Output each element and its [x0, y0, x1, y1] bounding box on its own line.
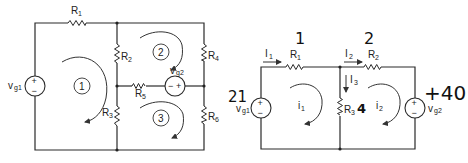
node — [115, 21, 118, 24]
resistor-r2 — [115, 44, 120, 63]
svg-text:+: + — [412, 98, 417, 108]
svg-text:4: 4 — [215, 55, 219, 62]
svg-text:i: i — [298, 100, 300, 111]
label-r3: R3 — [102, 107, 113, 119]
handwritten-vg2-value: +40 — [424, 81, 466, 105]
resistor-r3 — [338, 98, 343, 115]
svg-text:−: − — [258, 108, 263, 118]
wire-left-bottom — [35, 96, 204, 150]
svg-text:+: + — [258, 98, 263, 108]
voltage-source-vg1: + − — [25, 76, 45, 96]
mesh-label-2: 2 — [153, 44, 169, 60]
svg-text:2: 2 — [375, 54, 379, 61]
resistor-r6 — [202, 106, 207, 124]
svg-text:1: 1 — [78, 10, 82, 17]
label-r6: R6 — [208, 111, 219, 123]
resistor-r4 — [202, 44, 207, 61]
svg-text:3: 3 — [158, 113, 164, 124]
svg-text:2: 2 — [349, 53, 353, 60]
left-circuit: + − − + R1 R2 R3 R4 R5 R6 vg1 vg2 1 — [8, 5, 219, 152]
label-vg1: vg1 — [8, 80, 22, 92]
node — [115, 148, 118, 151]
resistor-r3 — [115, 106, 120, 126]
resistor-r1 — [68, 21, 86, 26]
label-r2: R2 — [368, 49, 379, 61]
label-r1: R1 — [290, 49, 301, 61]
svg-text:+: + — [176, 81, 181, 91]
voltage-source-vg2: − + — [165, 76, 185, 96]
svg-text:3: 3 — [354, 79, 358, 86]
label-r4: R4 — [208, 50, 219, 62]
svg-text:3: 3 — [109, 112, 113, 119]
svg-text:−: − — [412, 108, 417, 118]
svg-text:−: − — [32, 86, 37, 96]
label-r5: R5 — [135, 88, 146, 100]
svg-text:i: i — [376, 100, 378, 111]
node — [202, 84, 205, 87]
svg-text:I: I — [345, 48, 348, 59]
svg-text:I: I — [350, 74, 353, 85]
wire-left-top — [261, 67, 286, 98]
svg-text:g1: g1 — [14, 84, 22, 92]
mesh-arrow-i1 — [290, 84, 322, 124]
svg-text:I: I — [265, 48, 268, 59]
svg-text:v: v — [8, 80, 13, 91]
circuit-diagrams: + − − + R1 R2 R3 R4 R5 R6 vg1 vg2 1 — [0, 0, 468, 163]
svg-text:2: 2 — [128, 56, 132, 63]
mesh-label-3: 3 — [153, 110, 169, 126]
mesh-label-1: 1 — [74, 78, 90, 94]
svg-text:1: 1 — [301, 105, 305, 112]
svg-text:g2: g2 — [434, 107, 442, 115]
node — [115, 84, 118, 87]
label-vg2: vg2 — [170, 65, 184, 77]
node — [338, 65, 341, 68]
label-r2: R2 — [121, 51, 132, 63]
svg-text:2: 2 — [158, 47, 164, 58]
label-current-i1: I1 — [265, 48, 273, 60]
svg-text:v: v — [170, 65, 175, 76]
mesh-arrow-i2 — [368, 84, 400, 124]
svg-text:2: 2 — [379, 105, 383, 112]
right-circuit: + − + − R1 R2 R3 I1 I2 I3 vg1 vg2 i1 i2 … — [228, 29, 466, 151]
svg-text:5: 5 — [142, 93, 146, 100]
label-r1: R1 — [71, 5, 82, 17]
handwritten-vg1-value: 21 — [228, 88, 247, 106]
label-current-i2: I2 — [345, 48, 353, 60]
wire-left-top — [35, 23, 68, 76]
handwritten-r1-value: 1 — [295, 29, 305, 48]
svg-text:−: − — [168, 81, 173, 91]
svg-text:6: 6 — [215, 116, 219, 123]
label-r3: R3 — [344, 104, 355, 116]
svg-text:1: 1 — [269, 53, 273, 60]
svg-text:g2: g2 — [176, 69, 184, 77]
label-mesh-i2: i2 — [376, 100, 383, 112]
svg-text:1: 1 — [297, 54, 301, 61]
node — [338, 147, 341, 150]
voltage-source-vg2: + − — [405, 98, 425, 118]
svg-text:+: + — [32, 76, 37, 86]
handwritten-r3-value: 4 — [357, 101, 366, 116]
label-current-i3: I3 — [350, 74, 358, 86]
svg-text:3: 3 — [351, 109, 355, 116]
wire-top-right — [86, 23, 204, 44]
wire-bottom — [261, 118, 415, 149]
svg-text:1: 1 — [79, 81, 85, 92]
resistor-r2 — [364, 65, 381, 70]
label-mesh-i1: i1 — [298, 100, 305, 112]
voltage-source-vg1: + − — [251, 98, 271, 118]
resistor-r1 — [286, 65, 303, 70]
handwritten-r2-value: 2 — [364, 29, 374, 48]
svg-text:g1: g1 — [242, 107, 250, 115]
